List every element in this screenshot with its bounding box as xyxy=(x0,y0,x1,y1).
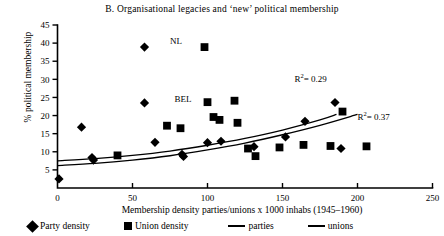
x-tick-label: 0 xyxy=(55,193,60,203)
y-tick-label: 5 xyxy=(45,165,50,175)
r2-annotation-unions: R2= 0.37 xyxy=(358,110,390,122)
chart-figure: B. Organisational legacies and ‘new’ pol… xyxy=(0,0,444,236)
data-point-party-density xyxy=(77,123,86,132)
point-label-bel: BEL xyxy=(175,94,192,104)
line-marker-icon xyxy=(228,225,245,227)
chart-legend: Party density Union density parties unio… xyxy=(28,219,428,233)
axes xyxy=(53,25,433,188)
data-point-union-density xyxy=(276,144,284,152)
data-point-union-density xyxy=(163,122,171,130)
legend-item-union-density: Union density xyxy=(124,221,189,231)
data-point-union-density xyxy=(234,119,242,127)
y-tick-label: 25 xyxy=(41,93,51,103)
data-point-union-density xyxy=(327,142,335,150)
regression-curve-parties xyxy=(58,114,337,160)
data-point-union-density xyxy=(363,142,371,150)
data-point-party-density xyxy=(150,138,159,147)
y-tick-label: 20 xyxy=(41,111,51,121)
data-point-party-density xyxy=(336,144,345,153)
data-point-union-density xyxy=(114,152,122,160)
y-tick-label: 10 xyxy=(41,147,51,157)
data-point-union-density xyxy=(216,116,224,124)
data-point-union-density xyxy=(252,152,260,160)
data-point-party-density xyxy=(140,42,149,51)
data-point-union-density xyxy=(231,97,239,105)
y-axis-label: % political membership xyxy=(23,2,33,152)
y-tick-label: 35 xyxy=(41,56,51,66)
legend-item-party-density: Party density xyxy=(28,221,90,231)
data-point-party-density xyxy=(216,137,225,146)
legend-label-parties: parties xyxy=(248,221,273,231)
x-tick-label: 50 xyxy=(128,193,138,203)
y-tick-label: 40 xyxy=(41,38,51,48)
legend-label-party-density: Party density xyxy=(40,221,90,231)
x-tick-label: 100 xyxy=(201,193,215,203)
square-marker-icon xyxy=(124,222,132,230)
legend-item-parties-line: parties xyxy=(228,221,273,231)
legend-label-unions: unions xyxy=(328,221,353,231)
r2-annotation-parties: R2= 0.29 xyxy=(295,72,327,84)
y-tick-label: 15 xyxy=(41,129,51,139)
y-tick-label: 30 xyxy=(41,75,51,85)
data-point-union-density xyxy=(177,124,185,132)
diamond-marker-icon xyxy=(26,220,39,233)
data-point-party-density xyxy=(140,98,149,107)
line-marker-icon xyxy=(308,225,325,227)
x-tick-label: 150 xyxy=(276,193,290,203)
x-tick-label: 250 xyxy=(426,193,440,203)
data-point-union-density xyxy=(244,145,252,153)
x-axis-label: Membership density parties/unions x 1000… xyxy=(40,205,444,215)
y-tick-label: 45 xyxy=(41,20,51,30)
legend-item-unions-line: unions xyxy=(308,221,353,231)
data-point-party-density xyxy=(54,174,63,183)
data-point-union-density xyxy=(201,43,209,51)
data-point-party-density xyxy=(330,98,339,107)
data-point-union-density xyxy=(204,98,212,106)
point-label-nl: NL xyxy=(170,36,182,46)
data-point-union-density xyxy=(339,108,347,116)
data-point-union-density xyxy=(300,141,308,149)
x-tick-label: 200 xyxy=(351,193,365,203)
legend-label-union-density: Union density xyxy=(135,221,189,231)
